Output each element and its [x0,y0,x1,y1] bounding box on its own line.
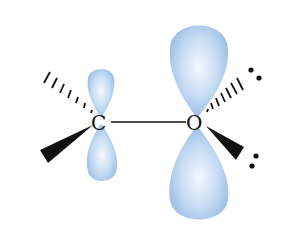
atom-label-carbon: C [91,111,106,135]
orbital-diagram: C O [0,0,281,236]
atom-label-oxygen: O [186,111,202,135]
carbon-hashed-wedge [44,72,92,113]
oxygen-upper-lobe [170,26,228,119]
oxygen-lone-pair-lower [249,153,258,168]
oxygen-lone-pair-upper [248,67,261,80]
carbon-solid-wedge [40,125,93,163]
